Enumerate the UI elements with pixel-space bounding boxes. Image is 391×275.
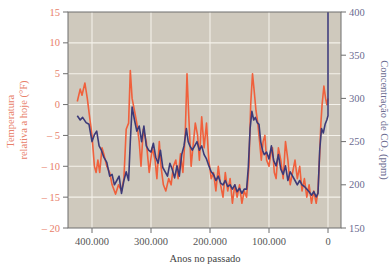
- x-axis: 400.000300.000200.000100.0000: [75, 228, 331, 247]
- x-tick-label: 0: [325, 236, 330, 247]
- right-tick-label: 400: [349, 7, 365, 18]
- left-tick-label: 0: [55, 99, 60, 110]
- x-tick-label: 100.000: [252, 236, 286, 247]
- plot-background: [68, 12, 341, 228]
- right-axis: 400350300250200150: [341, 7, 365, 234]
- left-tick-label: 5: [55, 68, 60, 79]
- left-tick-label: – 20: [41, 223, 60, 234]
- x-tick-label: 300.000: [134, 236, 168, 247]
- left-tick-label: 10: [50, 37, 61, 48]
- left-tick-label: – 10: [41, 161, 60, 172]
- chart: 151050– 5– 10– 15– 20 400350300250200150…: [0, 0, 391, 275]
- right-tick-label: 150: [349, 223, 365, 234]
- x-tick-label: 200.000: [193, 236, 227, 247]
- right-axis-label: Concentração de CO₂ (ppm): [378, 60, 390, 180]
- left-axis: 151050– 5– 10– 15– 20: [41, 7, 68, 234]
- left-tick-label: – 15: [41, 192, 60, 203]
- x-axis-label: Anos no passado: [169, 253, 240, 264]
- left-axis-label: Temperatura relativa a hoje (°F): [5, 80, 30, 160]
- right-tick-label: 200: [349, 179, 365, 190]
- right-tick-label: 300: [349, 93, 365, 104]
- x-tick-label: 400.000: [75, 236, 109, 247]
- left-tick-label: 15: [50, 7, 61, 18]
- left-tick-label: – 5: [46, 130, 60, 141]
- right-tick-label: 250: [349, 136, 365, 147]
- right-tick-label: 350: [349, 50, 365, 61]
